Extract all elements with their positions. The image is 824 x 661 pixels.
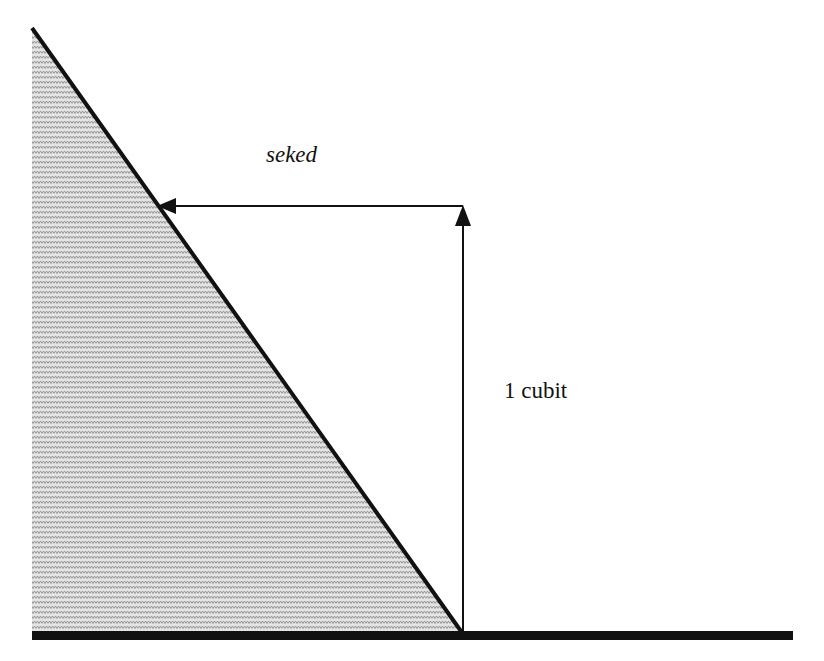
seked-diagram <box>0 0 824 661</box>
rise-arrowhead-icon <box>455 205 471 226</box>
cubit-label: 1 cubit <box>504 378 567 404</box>
baseline <box>32 631 793 640</box>
seked-label: seked <box>266 142 317 168</box>
